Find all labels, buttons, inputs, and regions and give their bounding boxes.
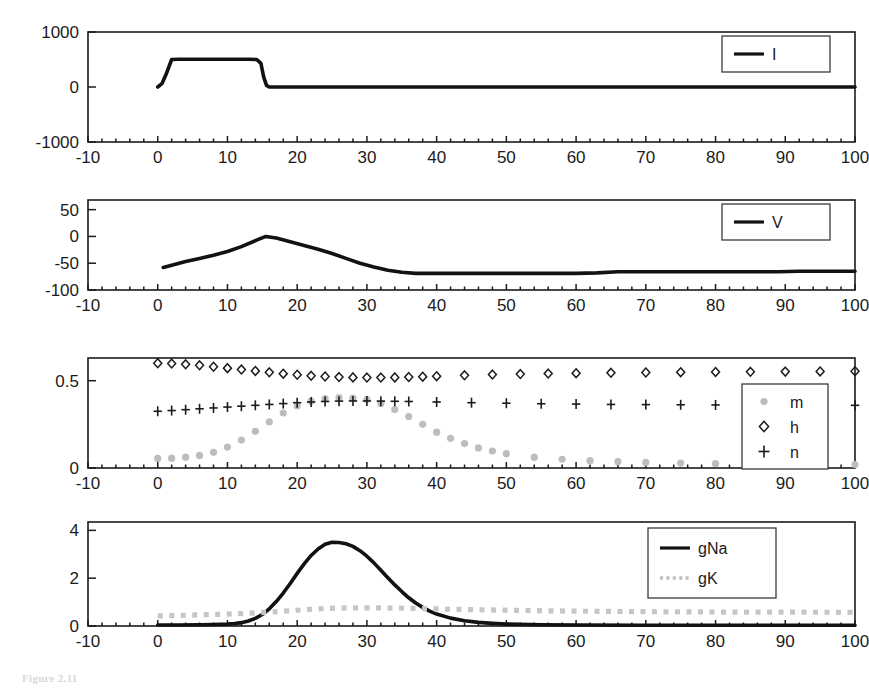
panel-voltage: -100102030405060708090100-100-50050V: [0, 186, 869, 332]
x-tick-label: 100: [841, 148, 869, 167]
x-tick-label: 100: [841, 296, 869, 315]
legend-box: [648, 528, 776, 598]
legend-swatch-m: [760, 398, 767, 405]
legend-label-gK: gK: [698, 570, 718, 587]
x-tick-label: 50: [497, 148, 516, 167]
panel-conductances-plot: -100102030405060708090100024gNagK: [0, 510, 869, 660]
y-tick-label: 50: [60, 201, 79, 220]
x-tick-label: 60: [567, 148, 586, 167]
y-tick-label: -50: [54, 254, 79, 273]
x-tick-label: 40: [427, 632, 446, 651]
y-tick-label: 0: [70, 617, 79, 636]
figure-caption: Figure 2.11: [22, 672, 78, 684]
x-tick-label: 30: [357, 474, 376, 493]
x-tick-label: 70: [636, 296, 655, 315]
x-tick-label: 50: [497, 474, 516, 493]
y-tick-label: 0: [70, 227, 79, 246]
x-tick-label: -10: [76, 474, 101, 493]
y-tick-label: 2: [70, 569, 79, 588]
x-tick-label: 90: [776, 148, 795, 167]
y-tick-label: 1000: [41, 23, 79, 42]
x-tick-label: -10: [76, 148, 101, 167]
legend-label-h: h: [790, 419, 799, 436]
x-tick-label: 40: [427, 474, 446, 493]
y-tick-label: 4: [70, 521, 79, 540]
x-tick-label: 60: [567, 474, 586, 493]
x-tick-label: 40: [427, 148, 446, 167]
figure-root: -100102030405060708090100-100001000I -10…: [0, 0, 869, 690]
x-tick-label: 50: [497, 632, 516, 651]
x-tick-label: 20: [288, 296, 307, 315]
x-tick-label: -10: [76, 632, 101, 651]
x-tick-label: 20: [288, 148, 307, 167]
x-tick-label: 80: [706, 296, 725, 315]
x-tick-label: 30: [357, 296, 376, 315]
y-tick-label: 0: [70, 78, 79, 97]
legend-box: [742, 384, 828, 469]
x-tick-label: 80: [706, 474, 725, 493]
panel-gating-variables: -10010203040506070809010000.5mhn: [0, 346, 869, 498]
legend-label-n: n: [790, 444, 799, 461]
x-tick-label: 20: [288, 632, 307, 651]
x-tick-label: 0: [153, 148, 162, 167]
x-tick-label: 70: [636, 632, 655, 651]
x-tick-label: 70: [636, 474, 655, 493]
series-h: [154, 359, 859, 382]
series-V: [163, 236, 855, 273]
legend-label-V: V: [772, 214, 783, 231]
panel-conductances: -100102030405060708090100024gNagK: [0, 510, 869, 660]
x-tick-label: 0: [153, 474, 162, 493]
x-tick-label: -10: [76, 296, 101, 315]
panel-voltage-plot: -100102030405060708090100-100-50050V: [0, 186, 869, 332]
plot-frame: [88, 358, 855, 468]
x-tick-label: 30: [357, 148, 376, 167]
x-tick-label: 50: [497, 296, 516, 315]
x-tick-label: 70: [636, 148, 655, 167]
x-tick-label: 40: [427, 296, 446, 315]
legend-label-m: m: [790, 394, 803, 411]
x-tick-label: 30: [357, 632, 376, 651]
x-tick-label: 0: [153, 296, 162, 315]
x-tick-label: 10: [218, 296, 237, 315]
x-tick-label: 10: [218, 148, 237, 167]
panel-current-plot: -100102030405060708090100-100001000I: [0, 14, 869, 174]
x-tick-label: 10: [218, 632, 237, 651]
x-tick-label: 60: [567, 632, 586, 651]
y-tick-label: -100: [45, 281, 79, 300]
y-tick-label: 0.5: [55, 372, 79, 391]
x-tick-label: 80: [706, 632, 725, 651]
legend-label-I: I: [772, 46, 776, 63]
x-tick-label: 10: [218, 474, 237, 493]
panel-gating-variables-plot: -10010203040506070809010000.5mhn: [0, 346, 869, 498]
y-tick-label: 0: [70, 459, 79, 478]
x-tick-label: 100: [841, 632, 869, 651]
x-tick-label: 80: [706, 148, 725, 167]
x-tick-label: 100: [841, 474, 869, 493]
x-tick-label: 90: [776, 474, 795, 493]
series-gK: [158, 608, 855, 616]
x-tick-label: 0: [153, 632, 162, 651]
panel-current: -100102030405060708090100-100001000I: [0, 14, 869, 174]
y-tick-label: -1000: [36, 133, 79, 152]
x-tick-label: 90: [776, 296, 795, 315]
legend-label-gNa: gNa: [698, 540, 727, 557]
x-tick-label: 60: [567, 296, 586, 315]
x-tick-label: 90: [776, 632, 795, 651]
x-tick-label: 20: [288, 474, 307, 493]
